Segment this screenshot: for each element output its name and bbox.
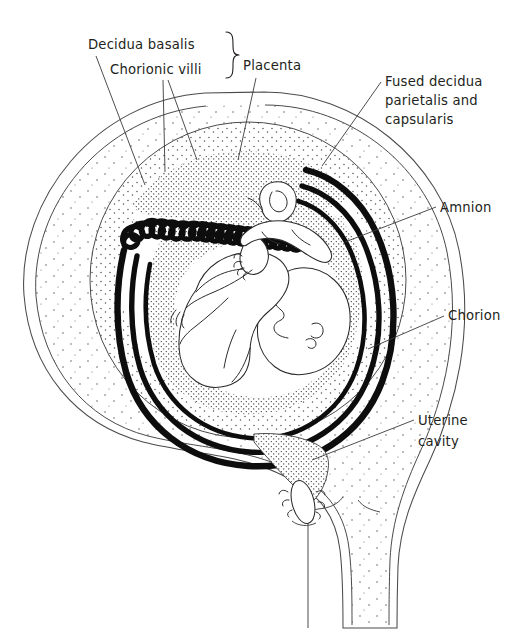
label-decidua-basalis: Decidua basalis	[88, 37, 195, 52]
label-uterine-cavity-line1: Uterine	[418, 413, 468, 428]
label-fused-decidua-line1: Fused decidua	[385, 74, 483, 89]
label-fused-decidua-line2: parietalis and	[385, 93, 478, 108]
label-amnion: Amnion	[440, 200, 492, 215]
label-fused-decidua-line3: capsularis	[385, 112, 454, 127]
label-chorionic-villi: Chorionic villi	[110, 62, 202, 77]
umbilical-cord-loop	[260, 182, 297, 223]
uterus-anatomy-diagram: Decidua basalis Chorionic villi Placenta…	[0, 0, 532, 640]
label-uterine-cavity-line2: cavity	[418, 434, 459, 449]
placenta-brace	[226, 32, 239, 78]
label-chorion: Chorion	[448, 308, 501, 323]
label-placenta: Placenta	[243, 58, 301, 73]
